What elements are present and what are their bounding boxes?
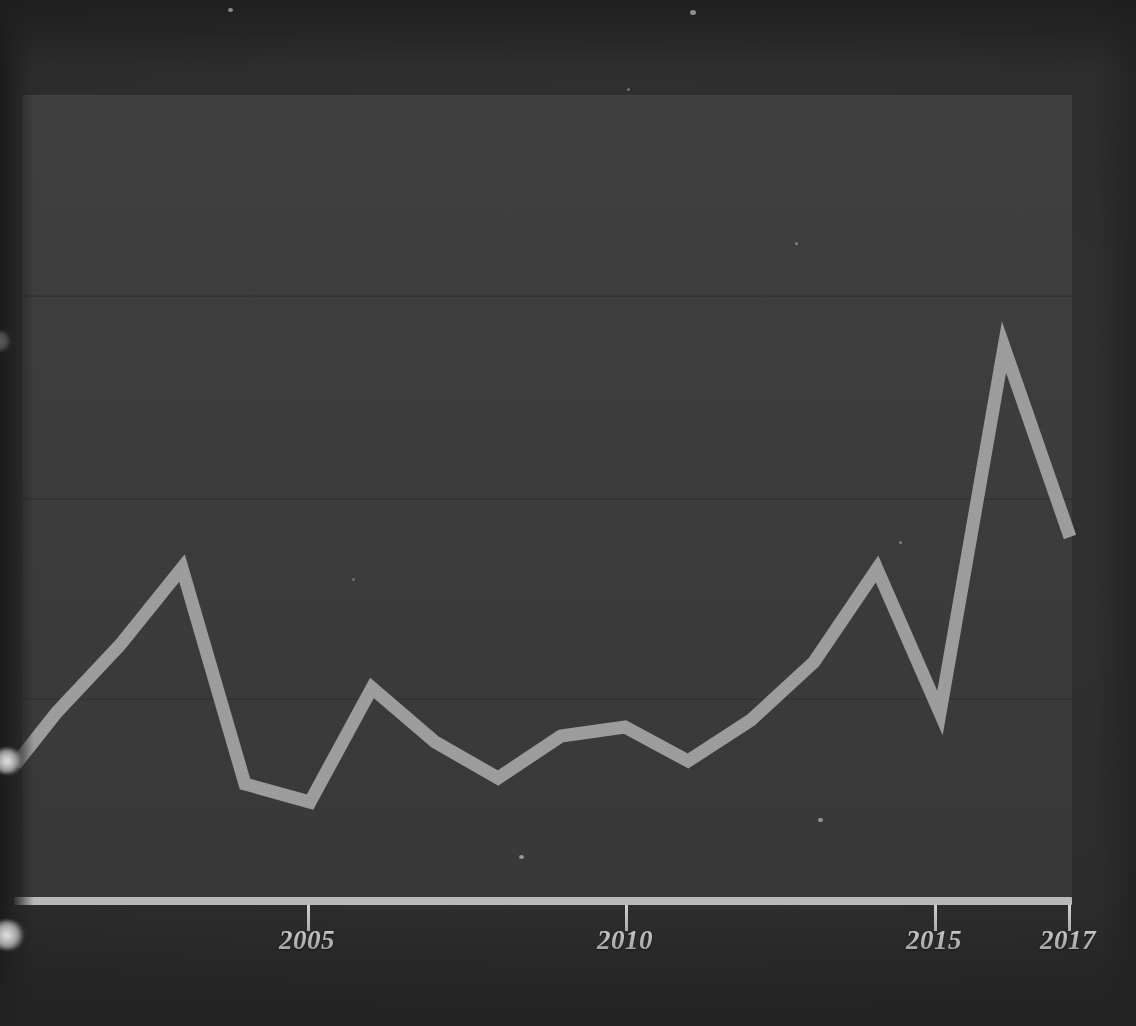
film-grain-overlay	[0, 0, 1136, 1026]
chart-screenshot: 2005201020152017	[0, 0, 1136, 1026]
